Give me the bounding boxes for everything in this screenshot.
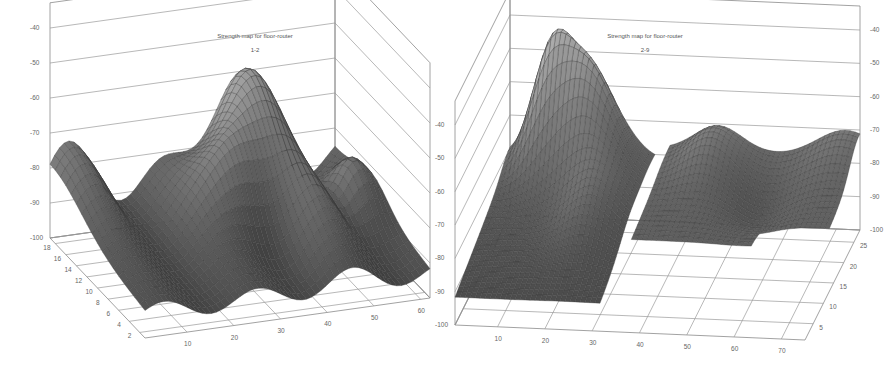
y-tick-label: 5 [819,324,823,331]
z-tick-label: -100 [870,226,883,233]
z-tick-label: -40 [870,26,880,33]
z-tick-label: -60 [870,93,880,100]
z-tick-label: -60 [30,94,40,101]
z-tick-label: -40 [30,24,40,31]
figure: Strength map for floor-router 1-2 102030… [0,0,885,366]
z-tick-label: -90 [30,199,40,206]
y-tick-label: 20 [850,263,858,270]
x-tick-label: 30 [589,339,597,346]
axes-right: 10203040506070510152025-40-50-60-70-80-9… [435,0,883,354]
y-tick-label: 4 [117,321,121,328]
z-tick-label: -50 [30,59,40,66]
surface-plot-left: Strength map for floor-router 1-2 102030… [0,0,440,366]
x-tick-label: 50 [371,314,379,321]
x-tick-label: 50 [684,343,692,350]
y-tick-label: 10 [86,288,94,295]
x-tick-label: 40 [324,320,332,327]
plot-subtitle-right: 2-9 [641,47,650,53]
z-tick-label: -70 [30,129,40,136]
z-tick-label: -80 [30,164,40,171]
x-tick-label: 60 [418,307,426,314]
x-tick-label: 20 [231,334,239,341]
x-tick-label: 40 [636,341,644,348]
x-tick-label: 70 [778,347,786,354]
z-tick-label: -100 [30,234,43,241]
z-tick-label: -80 [870,159,880,166]
x-tick-label: 10 [495,335,503,342]
x-tick-label: 10 [184,340,192,347]
y-tick-label: 16 [54,255,62,262]
y-tick-label: 18 [43,244,51,251]
z-tick-label: -50 [870,59,880,66]
y-tick-label: 10 [829,303,837,310]
plot-subtitle-left: 1-2 [251,47,260,53]
y-tick-label: 14 [64,266,72,273]
y-tick-label: 12 [75,277,83,284]
y-tick-label: 2 [128,332,132,339]
x-tick-label: 60 [731,345,739,352]
y-tick-label: 6 [107,310,111,317]
x-tick-label: 20 [542,337,550,344]
z-tick-label: -90 [870,193,880,200]
surface-mesh-right [455,29,860,303]
y-tick-label: 15 [840,283,848,290]
x-tick-label: 30 [277,327,285,334]
plot-title-right: Strength map for floor-router [607,33,683,39]
z-tick-label: -70 [870,126,880,133]
y-tick-label: 8 [96,299,100,306]
y-tick-label: 25 [860,242,868,249]
surface-mesh-left [50,68,430,314]
